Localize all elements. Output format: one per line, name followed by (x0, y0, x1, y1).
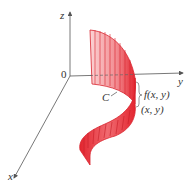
z-axis-label: z (60, 10, 64, 21)
height-label: f(x, y) (144, 89, 170, 100)
x-axis-label: x (8, 171, 13, 182)
y-axis-label: y (178, 76, 183, 87)
surface-upper (90, 30, 135, 104)
curve-label: C (102, 92, 109, 103)
x-axis (14, 76, 70, 178)
point-label: (x, y) (141, 104, 164, 115)
origin-label: 0 (61, 69, 67, 80)
curve-pointer (111, 92, 117, 96)
line-integral-surface-diagram: z 0 y x C f(x, y) (x, y) (0, 0, 191, 185)
